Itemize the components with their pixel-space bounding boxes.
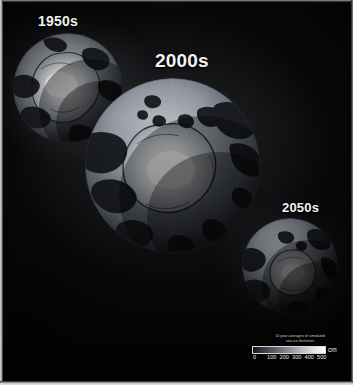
legend: 10 year averages of simulated sea-ice th…	[252, 334, 348, 361]
frame-bottom-edge	[0, 381, 353, 385]
colorbar-tick-300: 300	[291, 355, 304, 361]
decade-label-2000s: 2000s	[155, 50, 209, 72]
decade-label-1950s: 1950s	[38, 13, 78, 29]
legend-caption-line-2: sea-ice thickness	[252, 339, 348, 344]
globe-2050s	[242, 218, 338, 314]
legend-caption: 10 year averages of simulated sea-ice th…	[252, 334, 348, 344]
colorbar-tick-400: 400	[303, 355, 316, 361]
colorbar-tick-500: 500	[316, 355, 329, 361]
colorbar-ticks: 0 100 200 300 400 500	[252, 355, 328, 361]
sea-ice-figure: 1950s 2000s 2050s 10 year averages of si…	[0, 0, 353, 385]
colorbar-unit-label: cm	[328, 347, 337, 354]
globe-2000s	[85, 78, 260, 253]
globe-2000s-render	[85, 78, 260, 253]
globe-2050s-render	[242, 218, 338, 314]
colorbar-tick-0: 0	[253, 355, 266, 361]
frame-top-edge	[0, 0, 353, 2]
decade-label-2050s: 2050s	[282, 200, 319, 215]
colorbar-gradient	[252, 346, 326, 354]
colorbar-tick-200: 200	[278, 355, 291, 361]
colorbar-tick-100: 100	[266, 355, 279, 361]
frame-left-edge	[0, 0, 3, 385]
